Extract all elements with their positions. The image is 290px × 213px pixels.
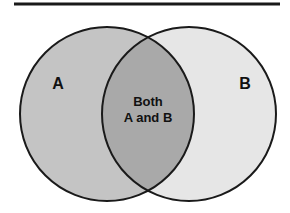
venn-diagram: A B Both A and B xyxy=(0,0,290,213)
intersection-label-line2: A and B xyxy=(124,110,173,125)
intersection-label-line1: Both xyxy=(133,94,163,109)
set-a-label: A xyxy=(52,75,64,92)
set-b-label: B xyxy=(239,75,251,92)
